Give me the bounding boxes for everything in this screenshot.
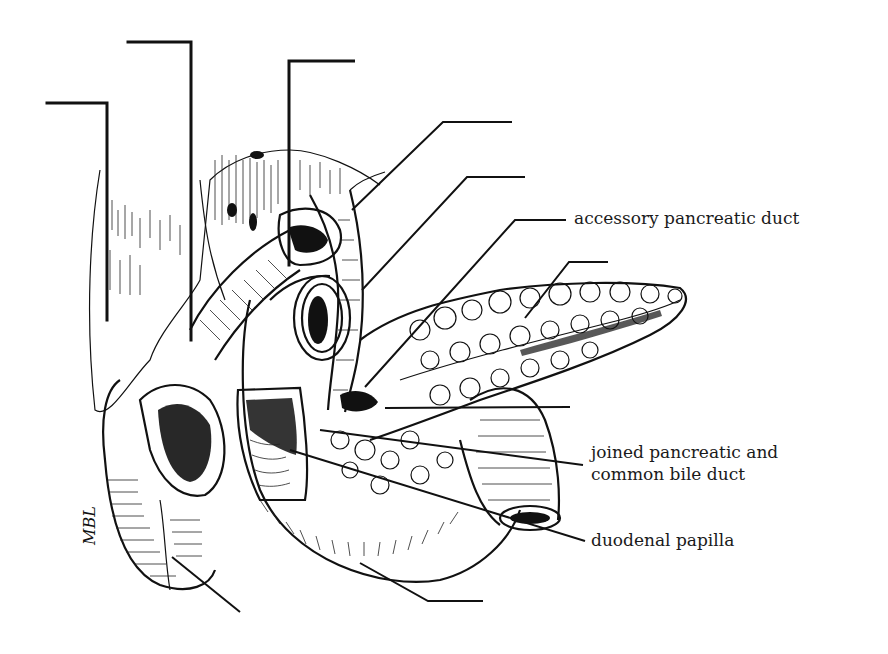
colon: [103, 380, 224, 590]
label-joined-duct-line2: common bile duct: [591, 464, 745, 485]
label-accessory-pancreatic-duct: accessory pancreatic duct: [574, 208, 799, 229]
label-joined-duct-line1: joined pancreatic and: [591, 442, 778, 463]
leader-portal: [362, 177, 525, 290]
leader-gallbladder: [128, 42, 191, 340]
leader-pancreas: [525, 262, 608, 318]
artist-signature: MBL: [80, 506, 99, 546]
leader-colon: [172, 557, 240, 612]
pancreas-duodenum-illustration: MBL: [0, 0, 888, 654]
leader-joined-duct: [320, 430, 583, 465]
label-duodenal-papilla: duodenal papilla: [591, 530, 734, 551]
leader-liver: [47, 103, 107, 320]
leader-bile-duct: [352, 122, 512, 210]
leader-main-pancreatic-duct: [385, 407, 570, 408]
